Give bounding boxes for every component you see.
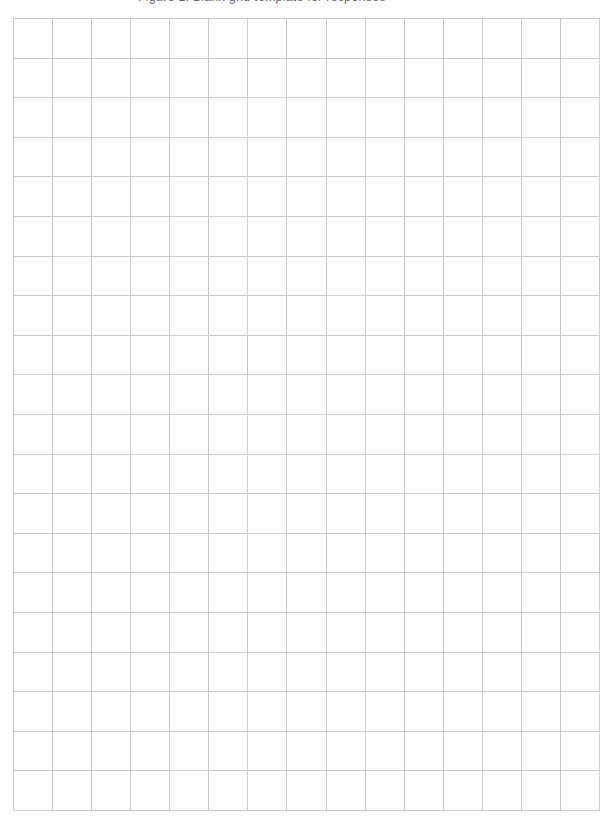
- grid-cell: [92, 257, 131, 297]
- grid-cell: [366, 296, 405, 336]
- grid-cell: [53, 771, 92, 811]
- grid-cell: [287, 375, 326, 415]
- grid-cell: [14, 771, 53, 811]
- grid-cell: [209, 692, 248, 732]
- grid-cell: [366, 336, 405, 376]
- grid-cell: [483, 494, 522, 534]
- grid-cell: [405, 296, 444, 336]
- grid-cell: [522, 98, 561, 138]
- grid-cell: [53, 98, 92, 138]
- grid-cell: [170, 534, 209, 574]
- grid-cell: [561, 336, 600, 376]
- grid-cell: [287, 257, 326, 297]
- grid-cell: [444, 494, 483, 534]
- grid-cell: [287, 177, 326, 217]
- grid-cell: [561, 375, 600, 415]
- clipped-caption-strip: Figure 1: Blank grid template for respon…: [0, 0, 613, 9]
- grid-cell: [248, 98, 287, 138]
- grid-cell: [444, 59, 483, 99]
- grid-cell: [483, 613, 522, 653]
- grid-cell: [131, 415, 170, 455]
- grid-cell: [561, 732, 600, 772]
- grid-cell: [444, 573, 483, 613]
- grid-cell: [248, 257, 287, 297]
- grid-cell: [561, 534, 600, 574]
- grid-cell: [366, 217, 405, 257]
- grid-cell: [92, 653, 131, 693]
- grid-cell: [444, 455, 483, 495]
- grid-cell: [170, 19, 209, 59]
- grid-cell: [405, 177, 444, 217]
- grid-cell: [53, 732, 92, 772]
- grid-cell: [483, 19, 522, 59]
- grid-cell: [92, 534, 131, 574]
- grid-cell: [483, 771, 522, 811]
- grid-cell: [561, 98, 600, 138]
- grid-cell: [14, 613, 53, 653]
- grid-cell: [248, 771, 287, 811]
- grid-cell: [483, 573, 522, 613]
- grid-cell: [522, 59, 561, 99]
- grid-cell: [522, 177, 561, 217]
- grid-cell: [14, 138, 53, 178]
- clipped-caption-text: Figure 1: Blank grid template for respon…: [138, 0, 386, 4]
- grid-cell: [522, 217, 561, 257]
- grid-cell: [248, 534, 287, 574]
- grid-cell: [444, 98, 483, 138]
- grid-cell: [131, 19, 170, 59]
- grid-cell: [248, 573, 287, 613]
- grid-cell: [209, 653, 248, 693]
- grid-cell: [248, 653, 287, 693]
- grid-cell: [444, 336, 483, 376]
- grid-cell: [405, 336, 444, 376]
- grid-cell: [287, 217, 326, 257]
- grid-cell: [131, 534, 170, 574]
- grid-cell: [561, 257, 600, 297]
- grid-cell: [131, 455, 170, 495]
- grid-cell: [53, 415, 92, 455]
- grid-cell: [405, 653, 444, 693]
- grid-cell: [53, 375, 92, 415]
- grid-cell: [92, 613, 131, 653]
- grid-cell: [327, 19, 366, 59]
- grid-cell: [327, 613, 366, 653]
- grid-cell: [131, 653, 170, 693]
- grid-cell: [14, 692, 53, 732]
- grid-cell: [287, 692, 326, 732]
- grid-cell: [327, 494, 366, 534]
- grid-cell: [170, 653, 209, 693]
- grid-cell: [287, 494, 326, 534]
- grid-cell: [561, 138, 600, 178]
- grid-cell: [287, 98, 326, 138]
- grid-cell: [131, 692, 170, 732]
- grid-cell: [170, 732, 209, 772]
- grid-cell: [287, 19, 326, 59]
- grid-cell: [561, 455, 600, 495]
- grid-cell: [366, 692, 405, 732]
- grid-cell: [53, 177, 92, 217]
- grid-cell: [444, 692, 483, 732]
- grid-cell: [366, 59, 405, 99]
- grid-cell: [366, 732, 405, 772]
- grid-cell: [14, 494, 53, 534]
- grid-cell: [170, 296, 209, 336]
- grid-cell: [561, 296, 600, 336]
- grid-cell: [522, 573, 561, 613]
- grid-cell: [405, 19, 444, 59]
- grid-cell: [483, 336, 522, 376]
- grid-cell: [483, 534, 522, 574]
- grid-cell: [14, 257, 53, 297]
- grid-cell: [327, 653, 366, 693]
- grid-cell: [366, 19, 405, 59]
- grid-cell: [287, 771, 326, 811]
- grid-cell: [561, 613, 600, 653]
- grid-cell: [483, 59, 522, 99]
- grid-cell: [248, 217, 287, 257]
- grid-cell: [522, 692, 561, 732]
- grid-cell: [522, 138, 561, 178]
- grid-cell: [131, 573, 170, 613]
- grid-cell: [483, 415, 522, 455]
- grid-cell: [561, 59, 600, 99]
- grid-cell: [209, 138, 248, 178]
- grid-cell: [209, 98, 248, 138]
